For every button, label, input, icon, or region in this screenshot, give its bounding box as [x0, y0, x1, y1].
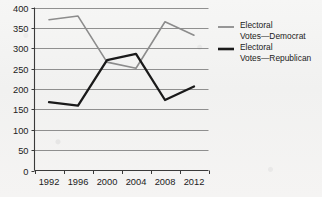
- x-axis-tick-label: 2004: [126, 177, 147, 187]
- y-axis-tick-label: 50: [18, 146, 28, 156]
- x-axis-labels: 199219962000200420082012: [39, 177, 205, 187]
- y-axis-labels: 050100150200250300350400: [13, 4, 29, 177]
- y-axis-tick-label: 250: [13, 65, 29, 75]
- x-axis-tick-label: 2008: [155, 177, 176, 187]
- electoral-votes-line-chart: 050100150200250300350400 199219962000200…: [0, 0, 322, 197]
- y-axis-tick-label: 350: [13, 24, 29, 34]
- x-axis-tick-label: 2000: [97, 177, 118, 187]
- y-axis-tick-label: 100: [13, 126, 29, 136]
- chart-legend: ElectoralVotes—DemocratElectoralVotes—Re…: [218, 20, 312, 63]
- chart-svg: 050100150200250300350400 199219962000200…: [0, 0, 322, 197]
- legend-label-line1: Electoral: [240, 42, 273, 52]
- series-line-democrat: [49, 16, 194, 68]
- legend-label-line2: Votes—Republican: [240, 53, 312, 63]
- series-line-republican: [49, 54, 194, 106]
- y-axis-tick-label: 400: [13, 4, 29, 14]
- x-axis-tick-label: 1992: [39, 177, 60, 187]
- x-axis-tick-label: 2012: [184, 177, 205, 187]
- x-axis-tick-label: 1996: [68, 177, 89, 187]
- y-axis-tick-label: 200: [13, 85, 29, 95]
- data-series-layer: [49, 16, 194, 106]
- legend-label-line2: Votes—Democrat: [240, 31, 306, 41]
- y-axis-tick-label: 0: [23, 167, 28, 177]
- y-axis-tick-label: 300: [13, 44, 29, 54]
- legend-label-line1: Electoral: [240, 20, 273, 30]
- y-axis-tick-label: 150: [13, 105, 29, 115]
